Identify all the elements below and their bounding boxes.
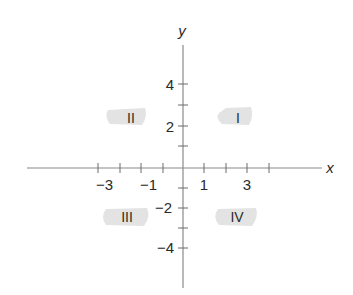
quadrant-i-label: I <box>236 110 240 126</box>
x-axis-label: x <box>325 159 334 176</box>
y-tick-label-4: 4 <box>166 76 174 93</box>
y-tick-label-neg2: −2 <box>155 199 172 216</box>
x-tick-label-3: 3 <box>243 176 251 193</box>
quadrant-ii-label: II <box>127 110 135 126</box>
coordinate-plane: y x −3 −1 1 3 4 2 −2 −4 II I III IV <box>0 0 353 295</box>
x-tick-label-neg1: −1 <box>140 176 157 193</box>
quadrant-i-highlight <box>218 107 253 125</box>
quadrant-iv-label: IV <box>230 209 244 225</box>
x-tick-label-neg3: −3 <box>96 176 113 193</box>
x-tick-label-1: 1 <box>200 176 208 193</box>
y-tick-label-2: 2 <box>166 118 174 135</box>
y-axis-label: y <box>177 22 187 39</box>
y-tick-label-neg4: −4 <box>157 239 174 256</box>
quadrant-iii-label: III <box>121 209 133 225</box>
